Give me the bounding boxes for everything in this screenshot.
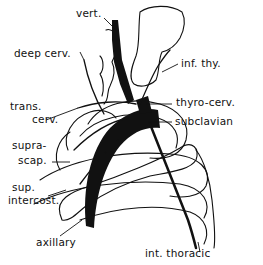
leader-deep-cerv [80, 52, 84, 60]
label-superior-intercostal-1: sup. [12, 182, 35, 193]
vertebra-outline [100, 56, 103, 96]
label-transverse-cervical-2: cerv. [32, 114, 58, 125]
artery-illustration [0, 0, 263, 265]
label-axillary: axillary [36, 237, 76, 248]
subclavian-artery [85, 109, 160, 228]
label-suprascapular-1: supra- [12, 140, 47, 151]
label-subclavian: subclavian [175, 116, 233, 127]
label-internal-thoracic: int. thoracic [145, 248, 210, 259]
thyroid-cartilage-outline [131, 6, 184, 86]
anatomy-diagram: vert. deep cerv. inf. thy. trans. cerv. … [0, 0, 263, 265]
leader-axillary [60, 220, 82, 236]
label-vertebral: vert. [76, 8, 101, 19]
vertebral-artery [112, 20, 134, 104]
label-thyrocervical: thyro-cerv. [176, 97, 235, 108]
label-superior-intercostal-2: intercost. [8, 195, 59, 206]
label-transverse-cervical-1: trans. [10, 101, 42, 112]
label-deep-cervical: deep cerv. [14, 48, 71, 59]
scapula-outline [56, 132, 70, 170]
label-inferior-thyroid: inf. thy. [181, 58, 221, 69]
inferior-thyroid-branch [140, 50, 170, 104]
leader-inf-thy [162, 64, 178, 72]
rib-outline [80, 207, 207, 244]
label-suprascapular-2: scap. [18, 155, 47, 166]
